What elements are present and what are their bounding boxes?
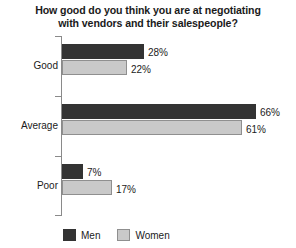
axis-tick-top xyxy=(55,36,61,37)
chart-page: How good do you think you are at negotia… xyxy=(0,0,296,248)
chart-legend: Men Women xyxy=(63,229,170,241)
plot-area: Good 28% 22% Average 66% 61% Poor 7% 17% xyxy=(0,0,296,248)
bar-value-good-men: 28% xyxy=(148,47,168,58)
legend-label-men: Men xyxy=(81,230,100,241)
bar-value-good-women: 22% xyxy=(131,64,151,75)
axis-tick-average-poor xyxy=(55,156,61,157)
legend-item-women: Women xyxy=(117,229,169,241)
category-label-poor: Poor xyxy=(0,180,58,191)
bar-poor-women xyxy=(62,180,112,195)
category-label-good: Good xyxy=(0,60,58,71)
legend-item-men: Men xyxy=(63,229,100,241)
bar-value-average-women: 61% xyxy=(246,124,266,135)
legend-swatch-men-icon xyxy=(63,229,76,241)
bar-average-men xyxy=(62,104,256,119)
legend-swatch-women-icon xyxy=(117,229,130,241)
bar-poor-men xyxy=(62,164,83,179)
legend-label-women: Women xyxy=(135,230,169,241)
category-label-average: Average xyxy=(0,120,58,131)
bar-average-women xyxy=(62,120,242,135)
bar-good-men xyxy=(62,44,144,59)
axis-tick-good-average xyxy=(55,96,61,97)
axis-tick-bottom xyxy=(55,215,61,216)
bar-value-poor-men: 7% xyxy=(87,167,101,178)
bar-value-poor-women: 17% xyxy=(116,184,136,195)
bar-good-women xyxy=(62,60,127,75)
bar-value-average-men: 66% xyxy=(260,107,280,118)
